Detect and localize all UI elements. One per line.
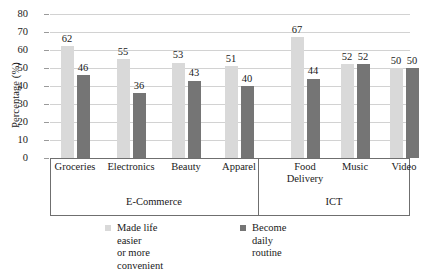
- bar-value-label: 55: [117, 47, 130, 58]
- x-axis-category-label: Video: [359, 161, 428, 173]
- y-axis-tick-label: 20: [0, 117, 28, 128]
- y-axis-tick-mark: [44, 122, 49, 123]
- bar: [357, 64, 370, 158]
- bar: [390, 68, 403, 158]
- bar-value-label: 50: [406, 56, 419, 67]
- y-axis-tick-mark: [44, 86, 49, 87]
- y-axis-tick-label: 60: [0, 45, 28, 56]
- bar-value-label: 67: [291, 25, 304, 36]
- bar: [341, 64, 354, 158]
- y-axis-tick-mark: [44, 68, 49, 69]
- bar: [291, 37, 304, 158]
- bar: [188, 81, 201, 158]
- bar-group: 5252: [341, 14, 370, 158]
- y-axis-tick-mark: [44, 50, 49, 51]
- bar: [241, 86, 254, 158]
- y-axis-tick-label: 70: [0, 27, 28, 38]
- bar-group: 5050: [390, 14, 419, 158]
- bar: [133, 93, 146, 158]
- bar-value-label: 46: [77, 63, 90, 74]
- plot-area: 80706050403020100 6246553653435140674452…: [50, 14, 410, 158]
- bar: [172, 63, 185, 158]
- y-axis-tick-label: 30: [0, 99, 28, 110]
- bar: [406, 68, 419, 158]
- x-axis-group-label: E-Commerce: [94, 196, 214, 207]
- y-axis-tick-label: 40: [0, 81, 28, 92]
- bar-value-label: 52: [341, 52, 354, 63]
- y-axis-tick-label: 50: [0, 63, 28, 74]
- y-axis-tick-mark: [44, 32, 49, 33]
- x-axis-group-label: ICT: [274, 196, 394, 207]
- bar-value-label: 51: [225, 54, 238, 65]
- y-axis-tick-label: 0: [0, 153, 28, 164]
- bar: [77, 75, 90, 158]
- bar-value-label: 62: [61, 34, 74, 45]
- bar-value-label: 44: [307, 66, 320, 77]
- y-axis-title: Percentage (%): [10, 45, 24, 145]
- chart-legend: Made life easier or more convenientBecom…: [50, 222, 410, 254]
- bar-value-label: 53: [172, 50, 185, 61]
- bar: [307, 79, 320, 158]
- bar-value-label: 50: [390, 56, 403, 67]
- bar-value-label: 36: [133, 81, 146, 92]
- bar-group: 5140: [225, 14, 254, 158]
- bar: [225, 66, 238, 158]
- bar: [117, 59, 130, 158]
- bar-value-label: 52: [357, 52, 370, 63]
- bar-group: 6744: [291, 14, 320, 158]
- y-axis-tick-mark: [44, 104, 49, 105]
- y-axis-tick-mark: [44, 14, 49, 15]
- y-axis-tick-mark: [44, 140, 49, 141]
- bar-group: 5536: [117, 14, 146, 158]
- y-axis-tick-mark: [44, 158, 49, 159]
- bar-value-label: 43: [188, 68, 201, 79]
- y-axis-tick-label: 80: [0, 9, 28, 20]
- bar: [61, 46, 74, 158]
- legend-label: Become daily routine: [252, 222, 286, 260]
- bar-group: 6246: [61, 14, 90, 158]
- legend-swatch-icon: [105, 225, 111, 231]
- bar-value-label: 40: [241, 74, 254, 85]
- bar-group: 5343: [172, 14, 201, 158]
- legend-swatch-icon: [240, 225, 246, 231]
- legend-label: Made life easier or more convenient: [117, 222, 163, 272]
- y-axis-tick-label: 10: [0, 135, 28, 146]
- bar-series-layer: 6246553653435140674452525050: [50, 14, 410, 158]
